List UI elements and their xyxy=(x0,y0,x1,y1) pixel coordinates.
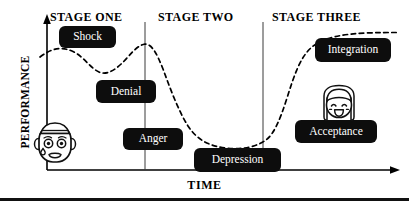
anxious-face-with-sweat-icon xyxy=(32,117,78,167)
change-curve-figure: PERFORMANCE TIME STAGE ONE STAGE TWO STA… xyxy=(0,0,409,206)
stage-label-three: STAGE THREE xyxy=(272,10,361,25)
stage-label-one: STAGE ONE xyxy=(50,10,122,25)
smiling-face-with-bangs-icon xyxy=(320,84,358,124)
stage-label-two: STAGE TWO xyxy=(158,10,234,25)
label-anger: Anger xyxy=(123,128,183,150)
y-axis-label: PERFORMANCE xyxy=(19,32,31,172)
label-shock: Shock xyxy=(59,26,116,48)
label-depression: Depression xyxy=(194,148,281,172)
x-axis-arrowhead xyxy=(390,166,400,174)
label-integration: Integration xyxy=(315,38,391,62)
label-denial: Denial xyxy=(96,80,156,103)
x-axis-label: TIME xyxy=(0,178,409,193)
bottom-divider-rule xyxy=(0,198,409,201)
